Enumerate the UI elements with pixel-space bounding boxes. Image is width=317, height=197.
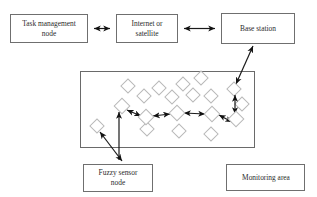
architecture-diagram: Task management node Internet or satelli… xyxy=(0,0,317,197)
box-base-station[interactable]: Base station xyxy=(222,14,295,44)
box-task-management-node[interactable]: Task management node xyxy=(11,15,88,43)
monitoring-area-label: Monitoring area xyxy=(242,173,291,182)
task-management-node-label-line2: node xyxy=(42,29,57,38)
box-fuzzy-sensor-node[interactable]: Fuzzy sensor node xyxy=(84,165,153,192)
sensor-field-rectangle xyxy=(81,72,255,148)
fuzzy-sensor-node-label-line1: Fuzzy sensor xyxy=(99,168,138,177)
task-management-node-label-line1: Task management xyxy=(22,19,76,28)
box-internet-or-satellite[interactable]: Internet or satellite xyxy=(117,15,178,43)
diagram-page: Task management node Internet or satelli… xyxy=(0,0,317,197)
box-monitoring-area[interactable]: Monitoring area xyxy=(227,165,305,191)
fuzzy-sensor-node-label-line2: node xyxy=(111,178,126,187)
base-station-label: Base station xyxy=(240,24,276,33)
internet-or-satellite-label-line1: Internet or xyxy=(132,19,164,28)
internet-or-satellite-label-line2: satellite xyxy=(136,29,160,38)
